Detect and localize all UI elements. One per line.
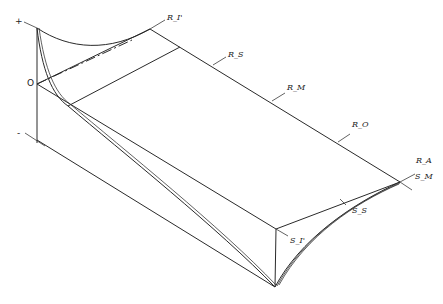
top-back-edge: [150, 29, 400, 182]
ro-leader: [338, 134, 350, 142]
minus-label: -: [17, 128, 20, 138]
plus-leader: [24, 22, 37, 28]
label-ro: R_O: [351, 120, 369, 129]
label-rs: R_S: [227, 50, 244, 59]
label-sm: S_M: [415, 172, 433, 181]
right-curve-third: [279, 184, 399, 285]
si-leader: [276, 229, 288, 236]
label-rm: R_M: [286, 83, 306, 92]
label-si: S_I': [290, 236, 305, 245]
plus-label: +: [15, 16, 23, 26]
label-ra: R_A: [415, 156, 432, 165]
rs-leader: [213, 57, 226, 65]
label-ss: S_S: [352, 206, 367, 215]
front-right-edge: [276, 182, 400, 229]
sm-leader: [400, 182, 412, 190]
base-line: [37, 140, 275, 287]
minus-leader: [25, 133, 45, 146]
right-curve-outer: [275, 182, 400, 287]
rm-leader: [272, 93, 285, 101]
zero-label: O: [27, 78, 34, 88]
right-curve-inner: [277, 183, 400, 286]
ra-leader: [400, 174, 415, 182]
label-ri: R_I': [166, 13, 182, 22]
top-front-edge: [37, 84, 276, 229]
ri-leader: [150, 20, 165, 29]
mid-cross-line: [68, 47, 180, 106]
front-vertical-edge: [275, 229, 276, 287]
diagram-canvas: + O - R_I' R_S R_M R_O R_A S_M S_S S_I': [0, 0, 443, 304]
